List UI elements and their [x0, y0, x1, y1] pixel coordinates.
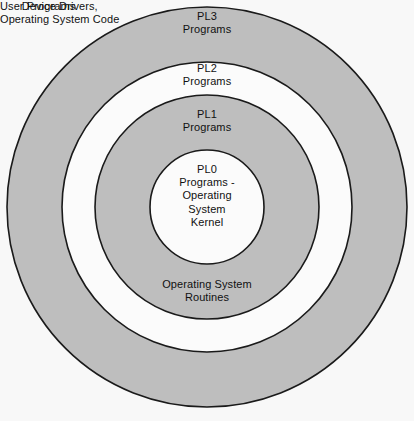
label-pl2-programs: PL2 Programs	[107, 62, 307, 88]
label-pl3-programs: PL3 Programs	[107, 10, 307, 36]
label-user-programs: User Programs	[0, 0, 75, 13]
label-operating-system-routines: Operating System Routines	[92, 278, 322, 304]
privilege-level-ring-diagram: PL3 Programs PL2 Programs PL1 Programs P…	[0, 0, 414, 421]
label-pl1-programs: PL1 Programs	[107, 108, 307, 134]
label-pl0-kernel: PL0 Programs - Operating System Kernel	[132, 163, 282, 229]
